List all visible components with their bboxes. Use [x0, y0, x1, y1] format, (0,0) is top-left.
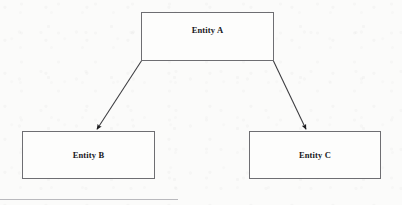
edge-entity-a-to-entity-c [273, 60, 306, 129]
entity-node-b-label: Entity B [73, 151, 105, 160]
page-bottom-rule [0, 199, 178, 200]
entity-node-c[interactable]: Entity C [249, 131, 381, 179]
entity-node-c-label: Entity C [299, 151, 331, 160]
entity-node-b[interactable]: Entity B [22, 131, 155, 179]
diagram-canvas: Entity A Entity B Entity C [0, 0, 402, 205]
entity-node-a-label: Entity A [192, 26, 224, 35]
entity-node-a[interactable]: Entity A [141, 12, 274, 61]
edge-entity-a-to-entity-b [97, 60, 142, 129]
